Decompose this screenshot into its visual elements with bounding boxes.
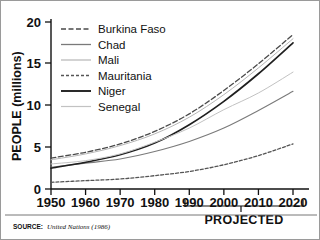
y-tick-group: 20 15 10 5 0 (27, 15, 51, 197)
y-tick-label: 20 (27, 15, 41, 30)
source-label: SOURCE: (13, 223, 43, 230)
x-tick-label: 1980 (140, 195, 169, 210)
x-tick-label: 1990 (175, 195, 204, 210)
legend-label-chad: Chad (98, 39, 126, 51)
source-text: United Nations (1986) (47, 223, 111, 231)
series-group (51, 35, 293, 183)
y-tick-label: 10 (27, 98, 41, 113)
legend-label-mauritania: Mauritania (98, 70, 152, 82)
x-tick-label: 2010 (244, 195, 273, 210)
series-line-burkina-faso (51, 35, 293, 159)
y-tick-label: 5 (34, 140, 41, 155)
legend-label-mali: Mali (98, 54, 119, 66)
chart-legend: Burkina FasoChadMaliMauritaniaNigerSeneg… (61, 23, 166, 113)
series-line-senegal (51, 72, 293, 164)
legend-label-senegal: Senegal (98, 101, 140, 113)
x-tick-label: 1970 (106, 195, 135, 210)
y-axis-title: PEOPLE (millions) (10, 51, 24, 161)
x-tick-group: 19501960197019801990200020102020 (37, 189, 308, 210)
x-tick-label: 1950 (37, 195, 66, 210)
y-tick-label: 15 (27, 56, 41, 71)
legend-label-burkina-faso: Burkina Faso (98, 23, 166, 35)
x-tick-label: 2000 (209, 195, 238, 210)
population-line-chart: PEOPLE (millions) 20 15 10 5 0 195019601… (1, 1, 320, 240)
x-tick-label: 1960 (71, 195, 100, 210)
legend-label-niger: Niger (98, 85, 126, 97)
series-line-mali (51, 39, 293, 160)
series-line-niger (51, 43, 293, 168)
chart-figure: PEOPLE (millions) 20 15 10 5 0 195019601… (0, 0, 320, 240)
